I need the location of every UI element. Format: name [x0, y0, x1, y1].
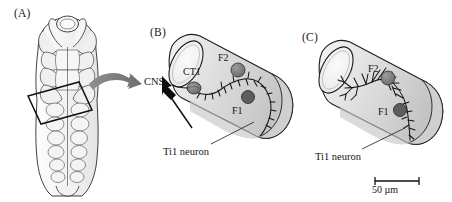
label-f1-panel-b: F1 [232, 105, 243, 116]
cell-f1-c [394, 104, 407, 117]
label-cns: CNS [144, 76, 164, 87]
panel-label-a: (A) [14, 7, 31, 19]
cell-ct1 [187, 82, 201, 94]
label-ti1-neuron-panel-b: Ti1 neuron [163, 146, 209, 157]
scale-bar-label: 50 µm [372, 184, 398, 195]
cell-f2-c [381, 71, 395, 85]
panel-label-c: (C) [302, 31, 318, 43]
label-ct1: CT1 [183, 66, 201, 77]
label-ti1-neuron-panel-c: Ti1 neuron [315, 151, 361, 162]
cell-f1 [242, 91, 255, 104]
figure-root: (A) (B) (C) CNS CT1 F2 F1 Ti1 neuron F2 … [0, 0, 452, 202]
panel-b-limb-bud [162, 34, 293, 144]
panel-label-b: (B) [150, 26, 166, 38]
figure-illustration [0, 0, 452, 202]
label-f1-panel-c: F1 [378, 106, 389, 117]
cell-f2 [231, 63, 245, 77]
label-f2-panel-c: F2 [368, 63, 379, 74]
panel-a-embryo [28, 16, 142, 196]
label-f2-panel-b: F2 [218, 52, 229, 63]
